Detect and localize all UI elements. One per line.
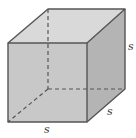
- width-label: s: [44, 123, 50, 136]
- depth-label: s: [107, 105, 113, 118]
- cube-diagram: s s s: [0, 0, 136, 138]
- height-label: s: [128, 40, 134, 53]
